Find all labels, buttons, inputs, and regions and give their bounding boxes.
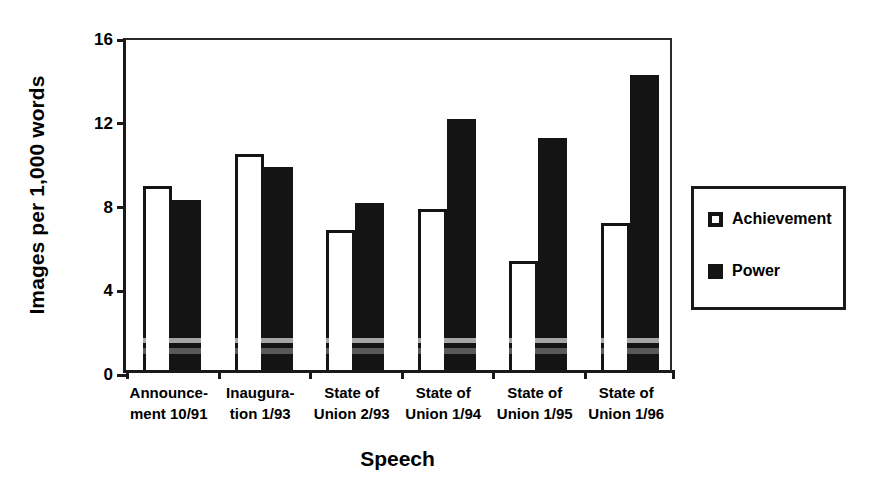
x-axis-label-line1: Inaugura- — [226, 384, 294, 401]
legend-label: Power — [732, 262, 780, 280]
x-axis-label-line2: Union 1/95 — [489, 403, 581, 424]
bar-achievement-0 — [143, 186, 172, 370]
bar-achievement-3 — [418, 209, 447, 370]
x-axis-label-0: Announce-ment 10/91 — [123, 382, 215, 424]
bar-achievement-4 — [509, 261, 538, 370]
plot-area: 0481216 — [123, 38, 672, 373]
chart-legend: AchievementPower — [691, 186, 846, 310]
bar-achievement-1 — [235, 154, 264, 370]
legend-label: Achievement — [732, 210, 832, 228]
y-axis-tick — [117, 122, 126, 125]
y-axis-tick-label: 0 — [104, 365, 113, 385]
x-axis-label-line2: tion 1/93 — [215, 403, 307, 424]
scan-artifact-band — [126, 338, 670, 343]
x-axis-tick — [672, 370, 675, 379]
x-axis-label-1: Inaugura-tion 1/93 — [215, 382, 307, 424]
plot-inner: 0481216 — [126, 40, 670, 370]
x-axis-label-3: State ofUnion 1/94 — [398, 382, 490, 424]
bar-power-1 — [264, 167, 293, 370]
y-axis-title: Images per 1,000 words — [14, 0, 60, 395]
x-axis-group-labels: Announce-ment 10/91Inaugura-tion 1/93Sta… — [123, 382, 672, 430]
x-axis-label-line1: State of — [507, 384, 562, 401]
y-axis-tick — [117, 290, 126, 293]
x-axis-tick — [401, 370, 404, 379]
bar-achievement-2 — [326, 230, 355, 370]
x-axis-tick — [309, 370, 312, 379]
x-axis-label-2: State ofUnion 2/93 — [306, 382, 398, 424]
y-axis-tick-label: 16 — [94, 30, 113, 50]
y-axis-tick-label: 4 — [104, 281, 113, 301]
x-axis-label-line2: Union 2/93 — [306, 403, 398, 424]
bar-achievement-5 — [601, 223, 630, 370]
x-axis-tick — [126, 370, 129, 379]
x-axis-label-4: State ofUnion 1/95 — [489, 382, 581, 424]
x-axis-label-line1: State of — [324, 384, 379, 401]
y-axis-tick-label: 8 — [104, 198, 113, 218]
x-axis-label-5: State ofUnion 1/96 — [581, 382, 673, 424]
x-axis-label-line2: Union 1/96 — [581, 403, 673, 424]
x-axis-title: Speech — [123, 447, 672, 471]
bar-power-3 — [447, 119, 476, 370]
legend-entry-achievement: Achievement — [708, 210, 832, 228]
x-axis-label-line1: State of — [599, 384, 654, 401]
bar-power-0 — [172, 200, 201, 370]
bar-chart-figure: Images per 1,000 words 0481216 Announce-… — [0, 0, 883, 495]
legend-entry-power: Power — [708, 262, 780, 280]
y-axis-tick — [117, 206, 126, 209]
x-axis-tick — [584, 370, 587, 379]
y-axis-tick-label: 12 — [94, 114, 113, 134]
scan-artifact-band — [126, 348, 670, 354]
bar-power-4 — [538, 138, 567, 370]
x-axis-label-line1: Announce- — [130, 384, 208, 401]
legend-swatch-achievement-icon — [708, 212, 723, 227]
y-axis-tick — [117, 39, 126, 42]
x-axis-label-line2: ment 10/91 — [123, 403, 215, 424]
x-axis-tick — [492, 370, 495, 379]
y-axis-tick — [117, 374, 126, 377]
bar-power-5 — [630, 75, 659, 370]
bar-power-2 — [355, 203, 384, 371]
x-axis-label-line1: State of — [416, 384, 471, 401]
x-axis-tick — [218, 370, 221, 379]
legend-swatch-power-icon — [708, 264, 723, 279]
x-axis-label-line2: Union 1/94 — [398, 403, 490, 424]
